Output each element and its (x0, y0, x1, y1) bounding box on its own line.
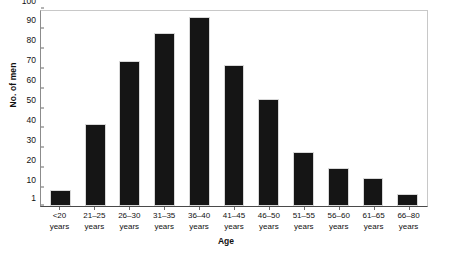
x-tick-label-unit: years (182, 221, 217, 232)
x-tick-label: <20years (42, 210, 77, 232)
x-tick-label: 21–25years (77, 210, 112, 232)
x-tick-label: 41–45years (217, 210, 252, 232)
y-tick-label: 10 (27, 175, 41, 184)
x-tick-label-range: 41–45 (217, 210, 252, 221)
x-tick-label-range: 26–30 (112, 210, 147, 221)
x-tick-label-unit: years (147, 221, 182, 232)
y-tick-label: 100 (22, 0, 41, 5)
bar-slot (147, 11, 182, 206)
x-tick-label: 46–50years (251, 210, 286, 232)
bar (119, 61, 140, 206)
x-tick-label-unit: years (217, 221, 252, 232)
x-tick-label: 56–60years (321, 210, 356, 232)
bar (224, 65, 245, 206)
y-tick-label: 1 (31, 193, 41, 202)
x-tick-label-unit: years (321, 221, 356, 232)
y-tick-label: 70 (27, 56, 41, 65)
bar-slot (182, 11, 217, 206)
x-tick-label-range: 21–25 (77, 210, 112, 221)
x-tick-label-unit: years (42, 221, 77, 232)
x-tick-label: 51–55years (286, 210, 321, 232)
x-tick-label-range: 61–65 (356, 210, 391, 221)
x-tick-label: 31–35years (147, 210, 182, 232)
bar (154, 33, 175, 206)
x-tick-label-range: 51–55 (286, 210, 321, 221)
plot-area: 1102030405060708090100 (40, 10, 428, 207)
x-axis-title: Age (0, 236, 452, 246)
x-tick-label-unit: years (391, 221, 426, 232)
bar (328, 168, 349, 206)
bar-slot (217, 11, 252, 206)
x-tick-label: 61–65years (356, 210, 391, 232)
bar (85, 124, 106, 206)
x-tick-label-unit: years (112, 221, 147, 232)
y-tick-label: 30 (27, 136, 41, 145)
bar-slot (321, 11, 356, 206)
x-tick-label-unit: years (77, 221, 112, 232)
x-axis-tick-labels: <20years21–25years26–30years31–35years36… (40, 210, 428, 232)
bar (397, 194, 418, 206)
bar (50, 190, 71, 206)
bar-chart-figure: No. of men 1102030405060708090100 <20yea… (0, 0, 452, 254)
x-tick-label-range: 66–80 (391, 210, 426, 221)
x-tick-label: 36–40years (182, 210, 217, 232)
bar (293, 152, 314, 206)
x-tick-label-range: <20 (42, 210, 77, 221)
bar-slot (43, 11, 78, 206)
bar-slot (356, 11, 391, 206)
bar-slot (251, 11, 286, 206)
x-tick-label: 66–80years (391, 210, 426, 232)
bar (189, 17, 210, 206)
x-tick-label-range: 36–40 (182, 210, 217, 221)
y-tick-label: 90 (27, 16, 41, 25)
x-tick-label-range: 46–50 (251, 210, 286, 221)
y-tick-mark (41, 8, 44, 9)
x-tick-label-unit: years (356, 221, 391, 232)
bar-slot (286, 11, 321, 206)
y-tick-label: 20 (27, 155, 41, 164)
bar-series (41, 11, 427, 206)
y-tick-label: 40 (27, 116, 41, 125)
y-tick-label: 80 (27, 36, 41, 45)
bar-slot (390, 11, 425, 206)
y-tick-label: 50 (27, 96, 41, 105)
y-tick-label: 60 (27, 76, 41, 85)
bar-slot (78, 11, 113, 206)
y-axis-title: No. of men (8, 40, 22, 130)
bar (258, 99, 279, 206)
x-tick-label-range: 31–35 (147, 210, 182, 221)
x-tick-label: 26–30years (112, 210, 147, 232)
x-tick-label-unit: years (286, 221, 321, 232)
bar (363, 178, 384, 206)
x-tick-label-range: 56–60 (321, 210, 356, 221)
bar-slot (112, 11, 147, 206)
x-tick-label-unit: years (251, 221, 286, 232)
